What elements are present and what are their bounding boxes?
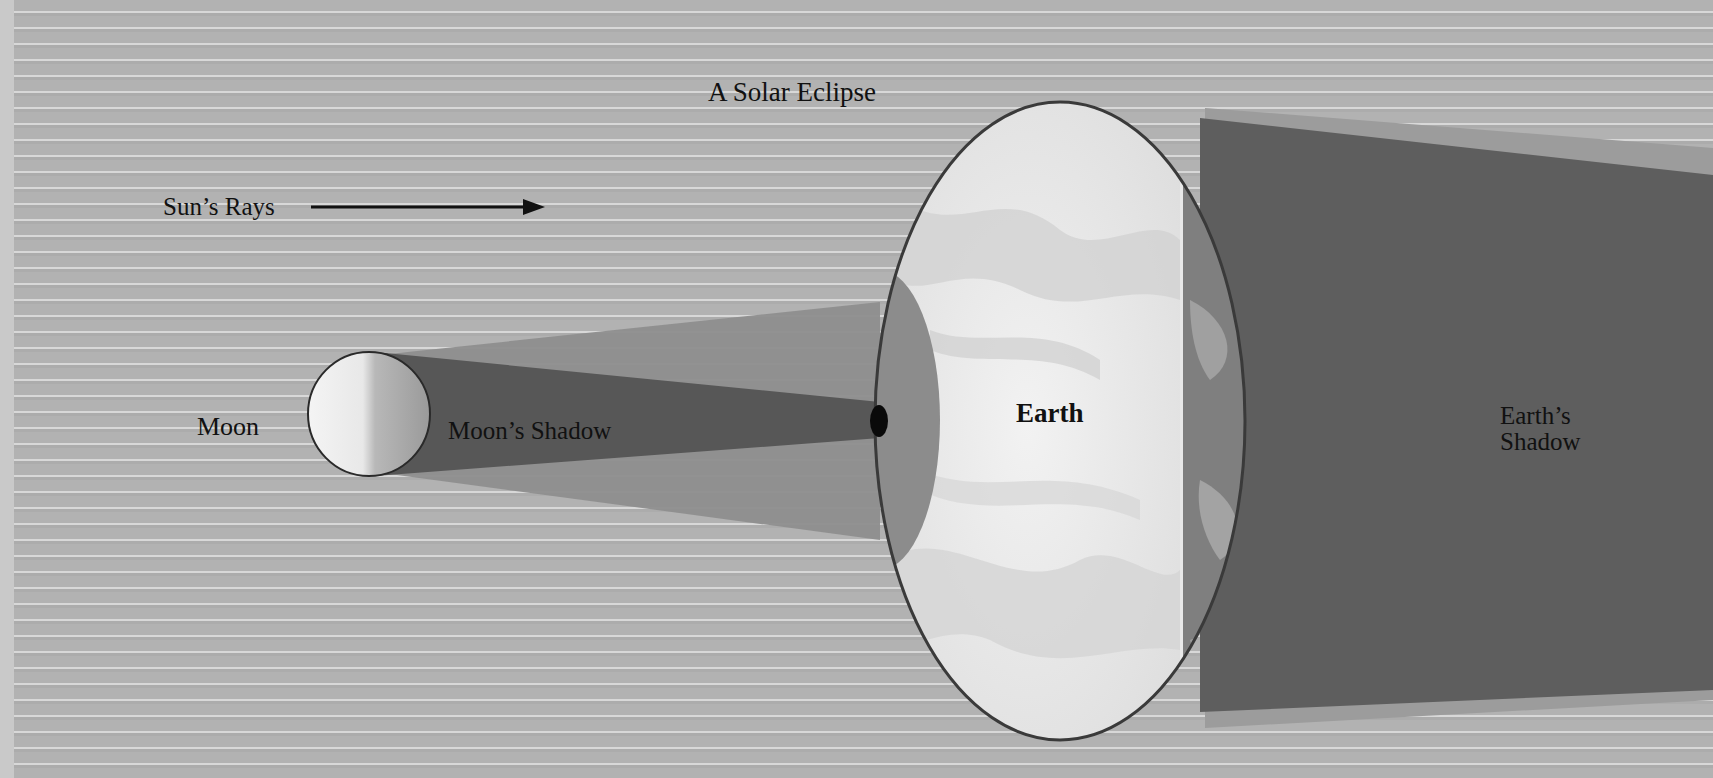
sun-rays-arrow-icon (311, 199, 545, 215)
moon (308, 352, 430, 476)
moon-label: Moon (197, 414, 259, 440)
earth-shadow-label-line1: Earth’s (1500, 403, 1581, 429)
sun-rays-label: Sun’s Rays (163, 194, 275, 219)
diagram-title: A Solar Eclipse (708, 79, 876, 106)
umbra-spot (870, 405, 888, 437)
earth-shadow-region (1200, 108, 1713, 728)
solar-eclipse-diagram: A Solar Eclipse Sun’s Rays Moon Moon’s S… (0, 0, 1713, 778)
eclipse-illustration (0, 0, 1713, 778)
earth-label: Earth (1016, 400, 1084, 427)
earth-shadow-label: Earth’s Shadow (1500, 403, 1581, 456)
earth-shadow-label-line2: Shadow (1500, 429, 1581, 455)
moon-shadow-label: Moon’s Shadow (448, 418, 611, 443)
